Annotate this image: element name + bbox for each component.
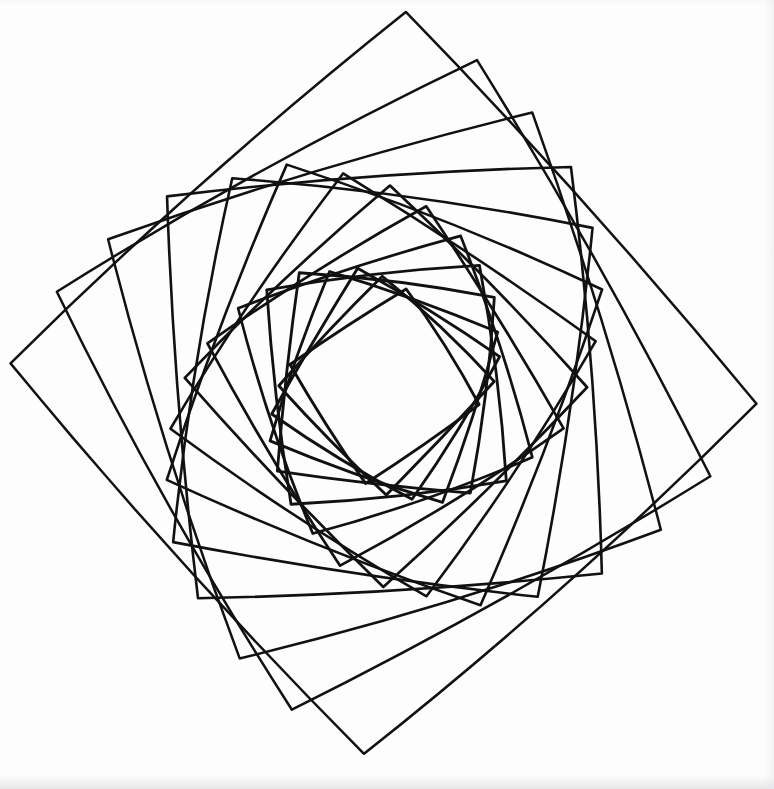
squares-group [11, 12, 757, 754]
artboard [0, 0, 774, 789]
square-outline-07 [170, 173, 595, 596]
square-outline-02 [57, 60, 711, 710]
rotating-squares-spiral-figure [0, 0, 774, 789]
square-outline-16 [290, 289, 479, 483]
square-outline-12 [277, 273, 494, 493]
square-outline-01 [11, 12, 757, 754]
square-outline-05 [173, 178, 592, 597]
square-outline-15 [279, 276, 494, 495]
square-outline-08 [185, 186, 587, 587]
